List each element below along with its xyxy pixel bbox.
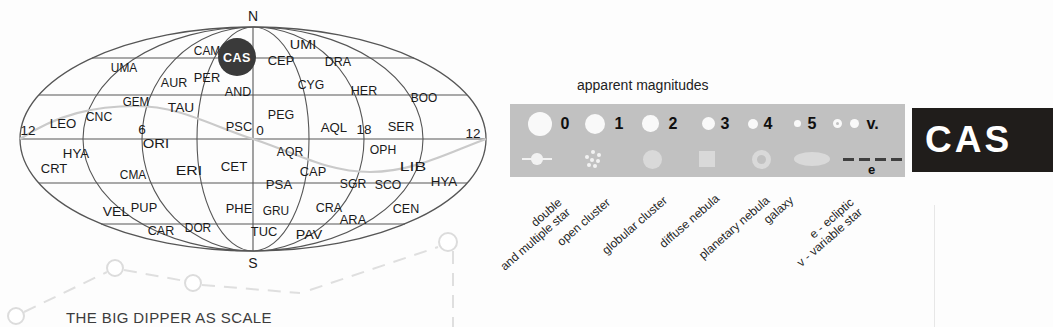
map-constellation-label-oph: OPH	[370, 142, 396, 157]
map-constellation-label-eri: ERI	[176, 163, 202, 178]
map-constellation-label-aql: AQL	[321, 120, 347, 135]
magnitude-0-label: 0	[561, 115, 570, 133]
double-star-icon	[531, 153, 543, 165]
map-constellation-label-psa: PSA	[266, 177, 293, 192]
map-constellation-label-phe: PHE	[226, 201, 253, 216]
magnitude-0-circle	[528, 112, 552, 136]
big-dipper-star-icon	[107, 260, 123, 276]
north-pole-label: N	[248, 8, 258, 24]
magnitude-4-circle	[748, 119, 758, 129]
ecliptic-marker-label: e	[868, 162, 875, 177]
planetary-nebula-icon	[752, 150, 771, 169]
map-constellation-label-vel: VEL	[103, 204, 129, 219]
map-constellation-label-her: HER	[351, 83, 377, 98]
map-constellation-label-sgr: SGR	[340, 176, 366, 191]
badge-label: CAS	[925, 119, 1012, 161]
map-constellation-label-hya: HYA	[431, 174, 458, 189]
magnitude-3-circle	[702, 117, 715, 130]
map-hour-label-6: 6	[138, 122, 146, 137]
variable-magnitude-label: v.	[866, 115, 878, 133]
map-constellation-label-crt: CRT	[41, 161, 67, 176]
map-constellation-label-cnc: CNC	[86, 109, 112, 124]
map-constellation-label-cen: CEN	[393, 201, 419, 216]
map-constellation-label-aqr: AQR	[277, 144, 303, 159]
map-hour-label-12: 12	[20, 123, 35, 138]
map-hour-label-18: 18	[356, 122, 371, 137]
map-constellation-label-per: PER	[194, 70, 220, 85]
highlight-label: CAS	[223, 51, 251, 65]
page-fold-line	[934, 205, 935, 327]
map-constellation-label-cyg: CYG	[298, 77, 324, 92]
galaxy-icon	[794, 152, 830, 166]
diffuse-nebula-icon	[699, 151, 715, 167]
caption: THE BIG DIPPER AS SCALE	[66, 309, 272, 326]
magnitude-5-circle	[794, 120, 801, 127]
map-constellation-label-boo: BOO	[411, 90, 437, 105]
map-constellation-label-ara: ARA	[340, 212, 367, 227]
map-constellation-label-cap: CAP	[300, 164, 326, 179]
map-constellation-label-gru: GRU	[263, 203, 289, 218]
map-constellation-label-dra: DRA	[325, 54, 352, 69]
map-constellation-label-psc: PSC	[226, 119, 252, 134]
map-constellation-label-leo: LEO	[50, 116, 76, 131]
map-constellation-label-cep: CEP	[268, 53, 294, 68]
big-dipper-star-icon	[439, 233, 457, 251]
open-cluster-dot	[597, 153, 601, 157]
map-constellation-label-lib: LIB	[400, 159, 426, 174]
open-cluster-dot	[596, 159, 600, 163]
map-constellation-label-dor: DOR	[185, 220, 211, 235]
map-constellation-label-cam: CAM	[194, 43, 220, 58]
map-constellation-label-ori: ORI	[143, 136, 169, 151]
variable-star-dot-icon	[850, 119, 860, 129]
south-pole-label: S	[248, 255, 257, 271]
map-constellation-label-ser: SER	[388, 119, 414, 134]
map-constellation-label-peg: PEG	[268, 107, 294, 122]
ecliptic-dash-icon	[859, 158, 870, 161]
magnitude-5-label: 5	[808, 115, 817, 133]
constellation-badge: CAS	[912, 108, 1053, 172]
magnitude-2-circle	[642, 115, 659, 132]
map-constellation-label-gem: GEM	[123, 94, 149, 109]
map-constellation-label-tuc: TUC	[251, 224, 277, 239]
legend-title: apparent magnitudes	[577, 77, 709, 93]
big-dipper-star-icon	[185, 275, 201, 291]
open-cluster-dot	[585, 155, 589, 159]
map-hour-label-12: 12	[465, 126, 480, 141]
magnitude-1-circle	[585, 114, 605, 134]
open-cluster-icon	[584, 150, 602, 168]
map-constellation-label-cet: CET	[221, 159, 247, 174]
map-constellation-label-sco: SCO	[375, 177, 401, 192]
open-cluster-dot	[591, 150, 595, 154]
map-constellation-label-pav: PAV	[296, 227, 323, 242]
globular-cluster-icon	[643, 150, 662, 169]
map-constellation-label-tau: TAU	[168, 100, 194, 115]
ecliptic-dash-icon	[891, 158, 902, 161]
magnitude-2-label: 2	[669, 115, 678, 133]
big-dipper-star-icon	[8, 308, 24, 324]
magnitude-3-label: 3	[721, 115, 730, 133]
sky-map: CAMUMICEPDRAUMAAURPERANDCYGHERBOOGEMTAUP…	[0, 0, 510, 327]
map-constellation-label-and: AND	[225, 84, 251, 99]
map-constellation-label-pup: PUP	[131, 200, 157, 215]
map-constellation-label-cra: CRA	[316, 200, 343, 215]
map-constellation-label-umi: UMI	[290, 37, 316, 52]
map-hour-label-0: 0	[256, 123, 264, 138]
ecliptic-dash-icon	[843, 158, 854, 161]
star-atlas-page: CAMUMICEPDRAUMAAURPERANDCYGHERBOOGEMTAUP…	[0, 0, 1053, 327]
map-constellation-label-hya: HYA	[63, 146, 90, 161]
map-constellation-label-aur: AUR	[161, 75, 187, 90]
map-highlight: CAS	[218, 38, 256, 76]
open-cluster-dot	[590, 158, 594, 162]
variable-star-ring-icon	[833, 119, 843, 129]
legend-label-ecliptic: e - eclipticv - variable star	[786, 196, 865, 269]
open-cluster-dot	[593, 164, 597, 168]
magnitude-1-label: 1	[615, 115, 624, 133]
magnitude-4-label: 4	[764, 115, 773, 133]
map-constellation-label-uma: UMA	[111, 60, 138, 75]
open-cluster-dot	[587, 163, 591, 167]
legend-panel: 012345v.e	[510, 104, 905, 177]
map-constellation-label-car: CAR	[148, 223, 174, 238]
ecliptic-dash-icon	[875, 158, 886, 161]
map-constellation-label-cma: CMA	[120, 167, 147, 182]
